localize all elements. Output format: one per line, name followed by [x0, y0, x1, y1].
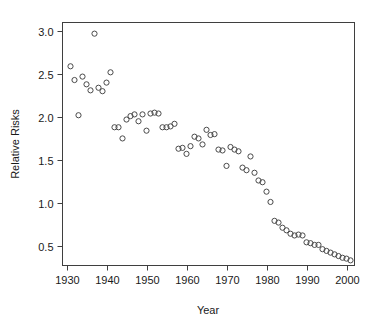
chart-screenshot: 19301940195019601970198019902000 0.51.01… [0, 0, 371, 328]
plot-frame [63, 23, 355, 266]
x-axis-ticks [68, 266, 348, 271]
y-tick-label-1.0: 1.0 [38, 198, 53, 210]
data-point [268, 199, 273, 204]
data-point [144, 128, 149, 133]
data-point [252, 170, 257, 175]
data-point [72, 77, 77, 82]
data-point [204, 127, 209, 132]
y-axis-ticks [58, 32, 63, 247]
data-point [188, 144, 193, 149]
data-point [104, 80, 109, 85]
data-point [264, 189, 269, 194]
data-point [100, 89, 105, 94]
data-point [80, 74, 85, 79]
data-point [108, 70, 113, 75]
y-axis-title: Relative Risks [9, 109, 21, 179]
x-tick-label-1950: 1950 [135, 274, 159, 286]
x-tick-label-1990: 1990 [295, 274, 319, 286]
data-point [88, 88, 93, 93]
data-point [248, 154, 253, 159]
y-tick-label-0.5: 0.5 [38, 241, 53, 253]
data-point [84, 82, 89, 87]
x-axis-title: Year [197, 304, 220, 316]
x-tick-label-1970: 1970 [215, 274, 239, 286]
data-point [92, 31, 97, 36]
y-tick-label-3.0: 3.0 [38, 26, 53, 38]
data-point [120, 136, 125, 141]
data-point [76, 113, 81, 118]
data-point [68, 64, 73, 69]
y-tick-label-1.5: 1.5 [38, 155, 53, 167]
data-points [68, 31, 353, 263]
x-tick-label-1930: 1930 [55, 274, 79, 286]
x-tick-label-2000: 2000 [335, 274, 359, 286]
y-axis-tick-labels: 0.51.01.52.02.53.0 [38, 26, 53, 253]
data-point [200, 142, 205, 147]
x-tick-label-1960: 1960 [175, 274, 199, 286]
scatter-plot: 19301940195019601970198019902000 0.51.01… [0, 0, 371, 328]
data-point [184, 151, 189, 156]
data-point [140, 112, 145, 117]
data-point [224, 163, 229, 168]
x-tick-label-1980: 1980 [255, 274, 279, 286]
x-tick-label-1940: 1940 [95, 274, 119, 286]
data-point [136, 119, 141, 124]
data-point [172, 121, 177, 126]
data-point [244, 168, 249, 173]
x-axis-tick-labels: 19301940195019601970198019902000 [55, 274, 359, 286]
y-tick-label-2.0: 2.0 [38, 112, 53, 124]
y-tick-label-2.5: 2.5 [38, 69, 53, 81]
